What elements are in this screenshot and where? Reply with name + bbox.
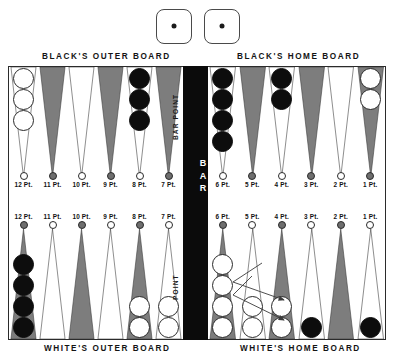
point-number-cell: 8 Pt.	[125, 209, 154, 229]
checker-stack	[356, 317, 386, 338]
point-number-label: 1 Pt.	[363, 181, 378, 188]
point-number-cell: 12 Pt.	[9, 172, 38, 192]
point-number-label: 3 Pt.	[304, 181, 319, 188]
point-5-bottom[interactable]	[238, 229, 268, 339]
point-number-cell: 9 Pt.	[96, 172, 125, 192]
point-number-cell: 4 Pt.	[267, 172, 297, 192]
checker-white[interactable]	[129, 296, 150, 317]
point-number-cell: 5 Pt.	[238, 209, 268, 229]
point-4-bottom[interactable]	[267, 229, 297, 339]
point-1-top[interactable]	[356, 67, 386, 177]
checker-stack	[297, 317, 327, 338]
checker-white[interactable]	[13, 110, 34, 131]
point-11-bottom[interactable]	[38, 229, 67, 339]
checker-black[interactable]	[271, 89, 292, 110]
quadrant-whites-home-board	[208, 229, 385, 339]
point-2-bottom[interactable]	[326, 229, 356, 339]
point-12-bottom[interactable]	[9, 229, 38, 339]
point-number-label: 11 Pt.	[44, 213, 62, 220]
point-numbers-top-right: 6 Pt.5 Pt.4 Pt.3 Pt.2 Pt.1 Pt.	[208, 172, 385, 192]
die-pip	[171, 24, 176, 29]
checker-white[interactable]	[158, 317, 179, 338]
point-number-label: 3 Pt.	[304, 213, 319, 220]
point-tip-dot-icon	[78, 172, 86, 180]
point-number-cell: 2 Pt.	[326, 172, 356, 192]
checker-white[interactable]	[13, 89, 34, 110]
point-11-top[interactable]	[38, 67, 67, 177]
point-number-label: 6 Pt.	[216, 213, 231, 220]
point-4-top[interactable]	[267, 67, 297, 177]
point-number-cell: 6 Pt.	[208, 172, 238, 192]
checker-white[interactable]	[212, 317, 233, 338]
checker-stack	[208, 68, 238, 152]
checker-black[interactable]	[13, 296, 34, 317]
point-tip-dot-icon	[136, 221, 144, 229]
quadrant-blacks-home-board	[208, 67, 385, 177]
point-2-top[interactable]	[326, 67, 356, 177]
die-pip	[219, 24, 224, 29]
checker-white[interactable]	[271, 296, 292, 317]
point-number-label: 2 Pt.	[334, 181, 349, 188]
point-number-cell: 4 Pt.	[267, 209, 297, 229]
point-number-cell: 11 Pt.	[38, 209, 67, 229]
checker-black[interactable]	[129, 68, 150, 89]
point-9-bottom[interactable]	[96, 229, 125, 339]
checker-black[interactable]	[13, 317, 34, 338]
checker-stack	[125, 68, 154, 131]
checker-white[interactable]	[271, 317, 292, 338]
die-right	[204, 9, 240, 44]
point-number-cell: 2 Pt.	[326, 209, 356, 229]
point-3-top[interactable]	[297, 67, 327, 177]
point-3-bottom[interactable]	[297, 229, 327, 339]
point-tip-dot-icon	[248, 172, 256, 180]
checker-black[interactable]	[212, 110, 233, 131]
point-tip-dot-icon	[366, 172, 374, 180]
die-left	[156, 9, 192, 44]
point-number-label: 9 Pt.	[103, 181, 118, 188]
point-numbers-top-left: 12 Pt.11 Pt.10 Pt.9 Pt.8 Pt.7 Pt.	[9, 172, 183, 192]
point-tip-dot-icon	[337, 221, 345, 229]
checker-white[interactable]	[13, 68, 34, 89]
point-5-top[interactable]	[238, 67, 268, 177]
checker-stack	[154, 296, 183, 338]
checker-white[interactable]	[212, 254, 233, 275]
point-tip-dot-icon	[165, 172, 173, 180]
checker-white[interactable]	[242, 317, 263, 338]
point-6-bottom[interactable]	[208, 229, 238, 339]
point-tip-dot-icon	[136, 172, 144, 180]
dice-pair	[0, 8, 395, 44]
point-number-cell: 10 Pt.	[67, 172, 96, 192]
bar-column: BAR	[183, 66, 208, 340]
checker-black[interactable]	[360, 317, 381, 338]
checker-black[interactable]	[13, 254, 34, 275]
checker-white[interactable]	[129, 317, 150, 338]
checker-black[interactable]	[271, 68, 292, 89]
point-number-cell: 11 Pt.	[38, 172, 67, 192]
checker-black[interactable]	[13, 275, 34, 296]
point-1-bottom[interactable]	[356, 229, 386, 339]
point-12-top[interactable]	[9, 67, 38, 177]
point-number-cell: 1 Pt.	[356, 209, 386, 229]
point-10-bottom[interactable]	[67, 229, 96, 339]
checker-white[interactable]	[360, 89, 381, 110]
point-10-top[interactable]	[67, 67, 96, 177]
checker-white[interactable]	[212, 296, 233, 317]
checker-black[interactable]	[212, 131, 233, 152]
point-number-label: 12 Pt.	[14, 213, 32, 220]
checker-black[interactable]	[212, 68, 233, 89]
checker-black[interactable]	[301, 317, 322, 338]
point-number-label: 11 Pt.	[44, 181, 62, 188]
checker-white[interactable]	[242, 296, 263, 317]
point-8-top[interactable]	[125, 67, 154, 177]
checker-white[interactable]	[360, 68, 381, 89]
point-8-bottom[interactable]	[125, 229, 154, 339]
quadrant-blacks-outer-board	[9, 67, 183, 177]
point-tip-dot-icon	[337, 172, 345, 180]
point-6-top[interactable]	[208, 67, 238, 177]
checker-white[interactable]	[212, 275, 233, 296]
checker-black[interactable]	[212, 89, 233, 110]
checker-black[interactable]	[129, 110, 150, 131]
checker-stack	[238, 296, 268, 338]
point-9-top[interactable]	[96, 67, 125, 177]
checker-black[interactable]	[129, 89, 150, 110]
